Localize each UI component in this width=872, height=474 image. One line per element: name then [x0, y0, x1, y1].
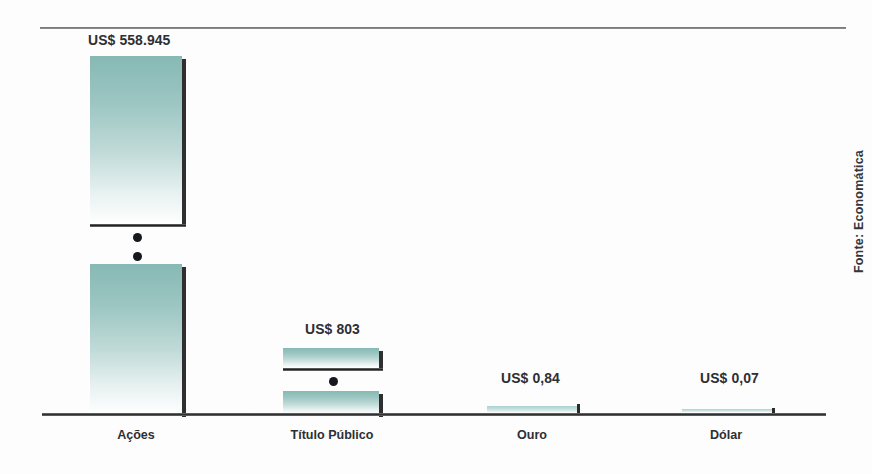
chart-figure: US$ 558.945 US$ 803 US$ 0,84 US$ 0,07 Aç… [0, 0, 872, 474]
x-axis-label-ouro: Ouro [486, 427, 579, 442]
source-note: Fonte: Economática [852, 150, 866, 273]
x-axis-label-acoes: Ações [90, 427, 183, 442]
bar-ouro [487, 406, 577, 412]
x-axis-label-titulo-publico: Título Público [271, 427, 394, 442]
plot-area: US$ 558.945 US$ 803 US$ 0,84 US$ 0,07 Aç… [0, 0, 872, 474]
bar-titulo-publico-upper-segment [283, 348, 379, 368]
value-label-titulo-publico: US$ 803 [305, 320, 360, 337]
x-axis-baseline [42, 413, 826, 416]
bar-acoes-lower-segment [90, 264, 182, 414]
value-label-dolar: US$ 0,07 [700, 369, 759, 386]
bar-titulo-publico-lower-segment [283, 391, 379, 414]
axis-break-dot-acoes-2 [133, 252, 142, 261]
bar-dolar [682, 409, 772, 412]
bar-titulo-publico-upper-underline [283, 368, 383, 371]
bar-acoes-upper-segment [90, 56, 182, 224]
axis-break-dot-acoes-1 [133, 233, 142, 242]
value-label-acoes: US$ 558.945 [88, 31, 170, 48]
value-label-ouro: US$ 0,84 [501, 369, 560, 386]
bar-acoes-upper-underline [90, 224, 186, 227]
axis-break-dot-titulo-publico-1 [329, 377, 338, 386]
x-axis-label-dolar: Dólar [680, 427, 773, 442]
